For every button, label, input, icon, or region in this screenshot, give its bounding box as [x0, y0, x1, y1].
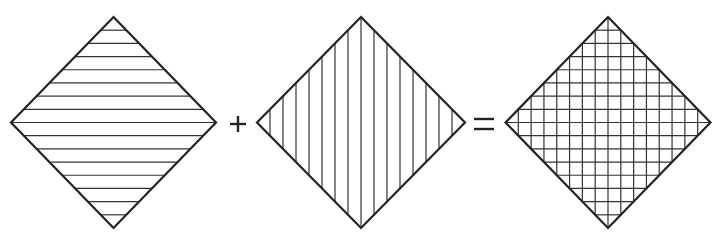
diamond-crosshatch — [506, 17, 711, 228]
diamond-shapes — [11, 17, 711, 228]
diamond-horizontal-hatching — [11, 30, 216, 215]
equals-sign — [474, 119, 494, 129]
diamond-crosshatch-hatching — [506, 17, 711, 228]
diamond-vertical — [257, 17, 465, 228]
diamond-vertical-hatching — [270, 17, 452, 228]
diagram-svg — [0, 0, 713, 239]
diamond-horizontal — [11, 17, 216, 228]
plus-sign — [230, 116, 246, 132]
diagram-canvas — [0, 0, 713, 239]
